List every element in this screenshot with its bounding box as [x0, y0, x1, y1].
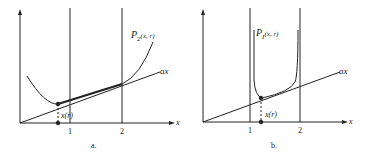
caption-b: b. [271, 141, 277, 150]
tick-1-a: 1 [68, 127, 72, 136]
tick-2-a: 2 [120, 127, 124, 136]
panel-b [201, 8, 348, 124]
x-axis-arrow-icon [342, 120, 348, 124]
y-axis-arrow-icon [18, 9, 22, 15]
x-label-b: x [348, 117, 353, 126]
point-label-a: x(r) [60, 111, 73, 120]
figure-canvas: P2(x, r) ax x(r) 1 2 x a. PI(x, r) ax x(… [0, 0, 367, 152]
y-axis-arrow-icon [201, 9, 205, 15]
panel-a [18, 8, 175, 125]
caption-a: a. [91, 141, 97, 150]
curve-p1 [254, 30, 298, 98]
min-point [259, 96, 263, 100]
x-axis-arrow-icon [169, 121, 175, 125]
tick-1-b: 1 [248, 126, 252, 135]
point-label-b: x(r) [264, 110, 277, 119]
line-label-a: ax [160, 66, 169, 76]
xr-point [56, 121, 60, 125]
tangent-segment [58, 84, 122, 104]
tick-2-b: 2 [298, 126, 302, 135]
xr-point [259, 120, 263, 124]
x-label-a: x [175, 118, 180, 127]
line-ax [20, 72, 160, 123]
line-label-b: ax [339, 66, 348, 76]
min-point [56, 102, 60, 106]
curve-label-a: P2(x, r) [130, 29, 155, 43]
curve-label-b: PI(x, r) [255, 27, 279, 41]
